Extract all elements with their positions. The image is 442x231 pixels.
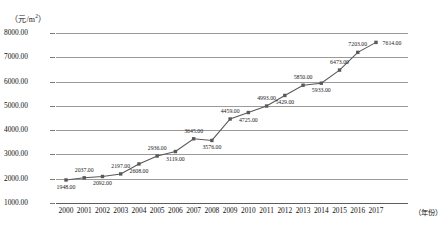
x-tick-label: 2016 — [350, 206, 365, 215]
x-tick-label: 2017 — [369, 206, 384, 215]
data-point-label: 2608.00 — [130, 168, 149, 174]
x-tick-label: 2001 — [77, 206, 92, 215]
data-point-label: 6473.00 — [330, 59, 349, 65]
data-point-marker — [83, 176, 86, 179]
data-point-marker — [137, 162, 140, 165]
data-point-marker — [265, 104, 268, 107]
data-point-label: 4993.00 — [257, 95, 276, 101]
x-axis-unit-label: （年份） — [414, 206, 442, 217]
y-tick-label: 5000.00 — [0, 101, 28, 110]
x-tick-label: 2014 — [314, 206, 329, 215]
x-tick-label: 2013 — [296, 206, 311, 215]
data-point-marker — [210, 139, 213, 142]
y-tick-mark — [50, 33, 55, 34]
data-point-label: 1948.00 — [57, 184, 76, 190]
data-point-label: 2037.00 — [75, 167, 94, 173]
data-point-marker — [247, 111, 250, 114]
data-point-label: 3645.00 — [184, 128, 203, 134]
data-point-marker — [283, 94, 286, 97]
data-point-marker — [119, 172, 122, 175]
gridline — [56, 203, 408, 204]
data-point-label: 5429.00 — [275, 99, 294, 105]
x-tick-label: 2008 — [204, 206, 219, 215]
data-point-marker — [174, 150, 177, 153]
plot-area: 1000.002000.003000.004000.005000.006000.… — [56, 33, 408, 203]
x-tick-label: 2011 — [259, 206, 274, 215]
data-point-marker — [301, 84, 304, 87]
data-point-marker — [228, 117, 231, 120]
y-tick-mark — [50, 179, 55, 180]
data-point-label: 7203.00 — [348, 41, 367, 47]
series-line — [56, 33, 408, 203]
y-tick-label: 6000.00 — [0, 77, 28, 86]
data-point-marker — [155, 154, 158, 157]
data-point-label: 2936.00 — [148, 145, 167, 151]
y-tick-mark — [50, 203, 55, 204]
x-tick-label: 2003 — [113, 206, 128, 215]
x-tick-label: 2005 — [150, 206, 165, 215]
data-point-marker — [320, 81, 323, 84]
y-tick-mark — [50, 82, 55, 83]
x-tick-label: 2000 — [59, 206, 74, 215]
y-tick-mark — [50, 154, 55, 155]
data-point-marker — [64, 178, 67, 181]
data-point-marker — [101, 175, 104, 178]
x-tick-label: 2004 — [132, 206, 147, 215]
x-tick-label: 2009 — [223, 206, 238, 215]
y-tick-label: 2000.00 — [0, 174, 28, 183]
y-tick-mark — [50, 106, 55, 107]
data-point-label: 4725.00 — [239, 117, 258, 123]
x-tick-label: 2006 — [168, 206, 183, 215]
data-point-marker — [192, 137, 195, 140]
x-tick-label: 2010 — [241, 206, 256, 215]
data-point-label: 3119.00 — [166, 156, 185, 162]
y-axis-title: （元/m2） — [10, 13, 46, 24]
y-tick-label: 8000.00 — [0, 28, 28, 37]
x-tick-label: 2012 — [277, 206, 292, 215]
data-point-label: 2092.00 — [93, 180, 112, 186]
y-tick-mark — [50, 130, 55, 131]
x-tick-label: 2007 — [186, 206, 201, 215]
data-point-label: 7614.00 — [383, 40, 402, 46]
data-point-label: 3576.00 — [202, 144, 221, 150]
y-axis-title-text: （元/m2） — [10, 15, 46, 24]
data-point-marker — [356, 51, 359, 54]
data-point-label: 5933.00 — [312, 87, 331, 93]
y-tick-label: 3000.00 — [0, 149, 28, 158]
y-tick-label: 4000.00 — [0, 125, 28, 134]
y-tick-mark — [50, 57, 55, 58]
data-point-label: 4459.00 — [221, 108, 240, 114]
x-tick-label: 2002 — [95, 206, 110, 215]
data-point-marker — [374, 41, 377, 44]
data-point-label: 5850.00 — [294, 74, 313, 80]
x-tick-label: 2015 — [332, 206, 347, 215]
y-tick-label: 1000.00 — [0, 198, 28, 207]
y-tick-label: 7000.00 — [0, 52, 28, 61]
data-point-label: 2197.00 — [111, 163, 130, 169]
data-point-marker — [338, 68, 341, 71]
